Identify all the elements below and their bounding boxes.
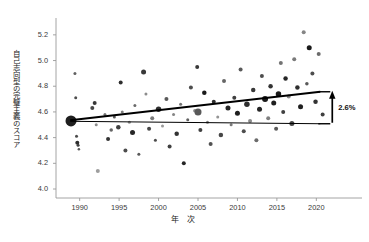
data-point — [317, 52, 321, 56]
data-point — [96, 169, 100, 173]
data-point — [281, 110, 285, 114]
data-point — [73, 72, 76, 75]
data-point — [274, 127, 278, 131]
axis-lines — [56, 18, 362, 198]
y-tick-label: 4.8 — [24, 81, 48, 90]
data-point — [144, 92, 147, 95]
data-point — [77, 144, 80, 147]
y-tick-label: 5.2 — [24, 30, 48, 39]
data-point — [168, 145, 172, 149]
data-point — [130, 130, 135, 135]
x-tick-label: 2015 — [262, 203, 292, 212]
data-point — [321, 113, 325, 117]
data-point — [195, 65, 199, 69]
data-point — [244, 101, 250, 107]
reference-line — [70, 121, 320, 123]
y-tick-label: 4.6 — [24, 107, 48, 116]
data-point — [222, 79, 226, 83]
data-point — [174, 132, 179, 137]
data-point — [133, 104, 136, 107]
data-point — [302, 30, 306, 34]
data-point — [310, 71, 314, 75]
y-tick-label: 5.0 — [24, 56, 48, 65]
data-point — [198, 128, 202, 132]
y-tick-label: 4.4 — [24, 133, 48, 142]
x-tick-label: 2000 — [144, 203, 174, 212]
data-point — [186, 118, 189, 121]
x-tick-label: 2020 — [301, 203, 331, 212]
data-point — [123, 148, 127, 152]
difference-annotation — [318, 91, 335, 124]
data-point — [225, 106, 230, 111]
data-point — [219, 133, 224, 138]
data-point — [279, 61, 283, 65]
data-point — [271, 100, 276, 105]
data-point — [195, 108, 202, 115]
data-point — [283, 76, 288, 81]
data-point — [172, 113, 175, 116]
data-point — [307, 45, 312, 50]
data-point — [93, 101, 97, 105]
data-point — [242, 129, 246, 133]
x-tick-label: 1990 — [65, 203, 95, 212]
data-point — [141, 70, 146, 75]
data-point — [202, 90, 207, 95]
data-point — [235, 111, 240, 116]
data-point — [75, 135, 78, 138]
x-tick-label: 2005 — [183, 203, 213, 212]
data-point — [251, 88, 256, 93]
data-point — [257, 107, 262, 112]
data-point — [121, 110, 124, 113]
data-point — [298, 104, 303, 109]
data-point — [216, 116, 219, 119]
y-tick-label: 4.2 — [24, 158, 48, 167]
data-point — [90, 106, 94, 110]
data-point — [106, 137, 110, 141]
trend-lines — [70, 92, 320, 124]
data-point — [268, 84, 273, 89]
data-point — [182, 161, 186, 165]
percent-change-label: 2.6% — [338, 103, 355, 112]
data-point — [74, 96, 77, 99]
data-point — [305, 82, 309, 86]
data-point — [313, 99, 318, 104]
data-point — [254, 138, 258, 142]
data-point — [209, 142, 213, 146]
data-point — [189, 86, 193, 90]
data-point — [292, 57, 296, 61]
data-point — [295, 85, 300, 90]
x-tick-label: 2010 — [222, 203, 252, 212]
data-point — [230, 123, 233, 126]
trend-line — [70, 92, 320, 121]
data-point — [119, 80, 123, 84]
data-point — [260, 74, 264, 78]
data-point — [78, 148, 81, 151]
data-points — [65, 30, 324, 173]
data-point — [232, 96, 236, 100]
data-point — [154, 139, 157, 142]
data-point — [150, 116, 154, 120]
y-tick-label: 4.0 — [24, 184, 48, 193]
data-point — [161, 125, 164, 128]
data-point — [95, 123, 98, 126]
data-point — [147, 127, 151, 131]
data-point — [179, 103, 182, 106]
data-point — [164, 97, 168, 101]
x-tick-label: 1995 — [104, 203, 134, 212]
data-point — [248, 119, 252, 123]
data-point — [239, 68, 243, 72]
data-point — [109, 128, 113, 132]
data-point — [266, 116, 270, 120]
data-point — [137, 153, 140, 156]
data-point — [116, 125, 121, 130]
